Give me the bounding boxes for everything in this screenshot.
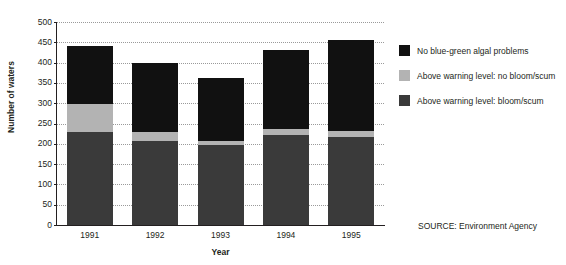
y-axis-tick (54, 42, 57, 43)
legend-item-label: Above warning level: no bloom/scum (417, 71, 555, 81)
y-axis-tick-label: 300 (38, 99, 52, 108)
bar-segment (198, 78, 244, 142)
legend-swatch-icon (399, 95, 410, 106)
y-axis-tick (54, 144, 57, 145)
y-axis-tick (54, 22, 57, 23)
y-axis-tick-label: 50 (43, 200, 52, 209)
x-axis-line (56, 225, 385, 226)
y-axis-tick (54, 184, 57, 185)
x-axis-tick-label: 1994 (253, 230, 318, 240)
y-axis-tick-label: 250 (38, 119, 52, 128)
bar-segment (67, 104, 113, 132)
y-axis-tick-label: 450 (38, 38, 52, 47)
bar-segment (328, 131, 374, 137)
y-axis-tick (54, 103, 57, 104)
y-axis-tick-label: 500 (38, 18, 52, 27)
bar-segment (67, 46, 113, 104)
y-axis-tick-label: 150 (38, 160, 52, 169)
bar-segment (198, 141, 244, 145)
y-axis-tick (54, 164, 57, 165)
source-note: SOURCE: Environment Agency (418, 221, 537, 231)
bar-segment (132, 132, 178, 140)
plot-area (57, 22, 384, 225)
legend-item: No blue-green algal problems (399, 38, 564, 63)
y-axis-tick (54, 225, 57, 226)
bar-1992 (132, 63, 178, 225)
bar-1991 (67, 46, 113, 225)
x-axis-title: Year (56, 247, 385, 257)
bar-1994 (263, 50, 309, 225)
bar-1993 (198, 78, 244, 225)
bar-1995 (328, 40, 374, 225)
legend-swatch-icon (399, 70, 410, 81)
legend-item-label: Above warning level: bloom/scum (417, 96, 544, 106)
legend-item: Above warning level: bloom/scum (399, 88, 564, 113)
legend-swatch-icon (399, 45, 410, 56)
y-axis-title: Number of waters (6, 37, 16, 157)
bar-segment (328, 40, 374, 131)
bar-segment (328, 137, 374, 226)
legend-item: Above warning level: no bloom/scum (399, 63, 564, 88)
x-axis-tick-label: 1993 (188, 230, 253, 240)
y-axis-tick-label: 200 (38, 139, 52, 148)
bar-segment (132, 63, 178, 133)
y-axis-tick-label: 350 (38, 78, 52, 87)
algal-bloom-stacked-bar-chart: Number of waters 05010015020025030035040… (0, 0, 566, 265)
y-axis-tick (54, 124, 57, 125)
y-axis-tick-label: 0 (47, 221, 52, 230)
legend-item-label: No blue-green algal problems (417, 46, 529, 56)
x-axis-tick-label: 1991 (57, 230, 122, 240)
bar-segment (67, 132, 113, 225)
legend: No blue-green algal problemsAbove warnin… (399, 38, 564, 113)
bar-segment (263, 129, 309, 135)
y-axis-tick-labels: 050100150200250300350400450500 (28, 22, 52, 225)
y-axis-tick-label: 400 (38, 58, 52, 67)
y-axis-tick (54, 63, 57, 64)
bar-segment (132, 141, 178, 225)
y-axis-tick-label: 100 (38, 180, 52, 189)
bar-segment (263, 50, 309, 129)
y-axis-tick (54, 83, 57, 84)
gridline (57, 22, 384, 24)
y-axis-tick (54, 205, 57, 206)
bar-segment (263, 135, 309, 225)
x-axis-tick-label: 1992 (122, 230, 187, 240)
x-axis-tick-label: 1995 (319, 230, 384, 240)
bar-segment (198, 145, 244, 225)
